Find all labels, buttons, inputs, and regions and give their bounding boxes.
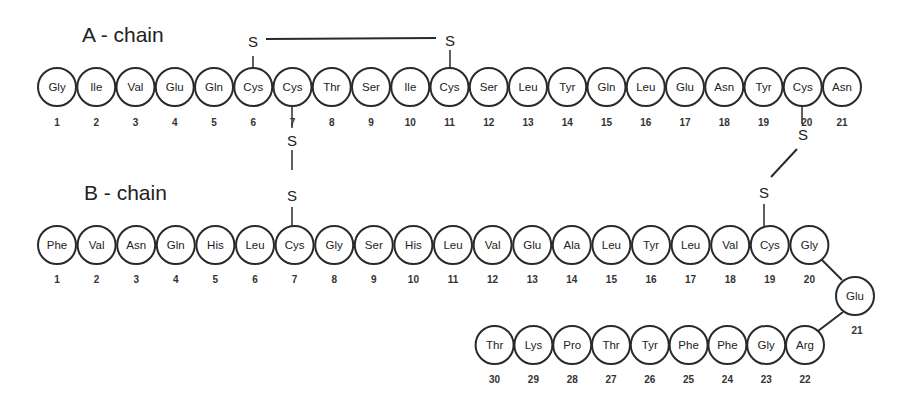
- residue-number: 2: [94, 274, 100, 285]
- residue-number: 9: [371, 274, 377, 285]
- residue-number: 13: [522, 117, 534, 128]
- residue-number: 26: [644, 374, 656, 385]
- residue-label: Val: [128, 81, 144, 93]
- residue-number: 27: [605, 374, 617, 385]
- residue-label: Asn: [714, 81, 734, 93]
- residue-label: Phe: [717, 339, 737, 351]
- sulfur-a11: S: [445, 32, 455, 49]
- residue-number: 18: [719, 117, 731, 128]
- residue-number: 19: [764, 274, 776, 285]
- residue-b25: Phe25: [670, 326, 708, 385]
- residue-b2: Val2: [78, 226, 116, 285]
- residue-label: Leu: [443, 239, 462, 251]
- residue-label: Asn: [126, 239, 146, 251]
- residue-a3: Val3: [117, 68, 155, 128]
- sulfur-a7: S: [287, 132, 297, 149]
- residue-number: 14: [562, 117, 574, 128]
- residue-number: 4: [172, 117, 178, 128]
- residue-label: His: [207, 239, 224, 251]
- residue-b6: Leu6: [236, 226, 274, 285]
- residue-number: 5: [213, 274, 219, 285]
- residue-label: Asn: [832, 81, 852, 93]
- residue-number: 20: [804, 274, 816, 285]
- residue-label: Cys: [760, 239, 780, 251]
- residue-label: Leu: [518, 81, 537, 93]
- residue-b30: Thr30: [476, 326, 514, 385]
- residue-label: Cys: [243, 81, 263, 93]
- residue-number: 17: [685, 274, 697, 285]
- residue-b15: Leu15: [592, 226, 630, 285]
- residue-b23: Gly23: [747, 326, 785, 385]
- residue-label: Leu: [245, 239, 264, 251]
- residue-a12: Ser12: [470, 68, 508, 128]
- residue-number: 2: [93, 117, 99, 128]
- residue-b17: Leu17: [672, 226, 710, 285]
- residue-number: 15: [606, 274, 618, 285]
- residue-number: 17: [679, 117, 691, 128]
- residue-label: Gln: [205, 81, 223, 93]
- residue-b5: His5: [196, 226, 234, 285]
- residue-number: 25: [683, 374, 695, 385]
- residue-number: 1: [54, 117, 60, 128]
- residue-number: 4: [173, 274, 179, 285]
- residue-b3: Asn3: [117, 226, 155, 285]
- sulfur-a6: S: [248, 33, 258, 50]
- residue-b1: Phe1: [38, 226, 76, 285]
- residue-a1: Gly1: [38, 68, 76, 128]
- residue-a19: Tyr19: [745, 68, 783, 128]
- residue-label: Gly: [326, 239, 344, 251]
- b-chain: Phe1Val2Asn3Gln4His5Leu6Cys7Gly8Ser9His1…: [38, 226, 874, 385]
- residue-label: His: [405, 239, 422, 251]
- bond-a20-b19: [771, 149, 797, 177]
- residue-label: Ser: [480, 81, 498, 93]
- sulfur-b19: S: [759, 184, 769, 201]
- residue-label: Ile: [90, 81, 102, 93]
- residue-a5: Gln5: [195, 68, 233, 128]
- residue-b22: Arg22: [786, 326, 824, 385]
- b-chain-title: B - chain: [84, 181, 167, 204]
- residue-number: 30: [489, 374, 501, 385]
- residue-b18: Val18: [711, 226, 749, 285]
- residue-a11: Cys11: [431, 68, 469, 128]
- residue-label: Glu: [676, 81, 694, 93]
- residue-number: 15: [601, 117, 613, 128]
- residue-a21: Asn21: [823, 68, 861, 128]
- residue-label: Leu: [636, 81, 655, 93]
- residue-label: Cys: [283, 81, 303, 93]
- residue-b7: Cys7: [276, 226, 314, 285]
- residue-number: 14: [566, 274, 578, 285]
- residue-b19: Cys19: [751, 226, 789, 285]
- residue-label: Ser: [365, 239, 383, 251]
- a-chain: Gly1Ile2Val3Glu4Gln5Cys6Cys7Thr8Ser9Ile1…: [38, 68, 861, 128]
- residue-number: 23: [761, 374, 773, 385]
- residue-label: Val: [89, 239, 105, 251]
- residue-a10: Ile10: [391, 68, 429, 128]
- residue-label: Thr: [323, 81, 340, 93]
- residue-label: Gly: [48, 81, 66, 93]
- residue-b27: Thr27: [592, 326, 630, 385]
- residue-b4: Gln4: [157, 226, 195, 285]
- residue-b8: Gly8: [315, 226, 353, 285]
- residue-number: 5: [211, 117, 217, 128]
- residue-label: Phe: [47, 239, 67, 251]
- residue-label: Glu: [166, 81, 184, 93]
- residue-b16: Tyr16: [632, 226, 670, 285]
- residue-label: Glu: [846, 290, 864, 302]
- residue-label: Ala: [563, 239, 580, 251]
- residue-number: 16: [645, 274, 657, 285]
- residue-b26: Tyr26: [631, 326, 669, 385]
- residue-label: Gln: [167, 239, 185, 251]
- a-chain-title: A - chain: [82, 23, 164, 46]
- residue-b9: Ser9: [355, 226, 393, 285]
- residue-label: Thr: [602, 339, 619, 351]
- residue-b24: Phe24: [708, 326, 746, 385]
- residue-label: Val: [722, 239, 738, 251]
- residue-a15: Gln15: [588, 68, 626, 128]
- residue-label: Leu: [681, 239, 700, 251]
- sulfur-a20: S: [798, 126, 808, 143]
- insulin-structure-diagram: A - chain B - chain S S S S S S Gly1Ile2…: [0, 0, 912, 405]
- residue-a17: Glu17: [666, 68, 704, 128]
- residue-a2: Ile2: [77, 68, 115, 128]
- residue-b21: Glu21: [836, 277, 874, 336]
- residue-label: Cys: [793, 81, 813, 93]
